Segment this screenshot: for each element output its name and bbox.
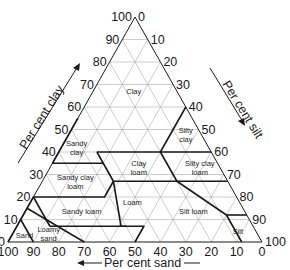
grid-line-silt: [135, 130, 199, 243]
clay-tick-label: 30: [29, 168, 43, 182]
region-label-clay-loam: loam: [131, 168, 147, 177]
region-label-silty-clay: Silty: [179, 126, 193, 135]
silt-tick-label: 40: [189, 100, 203, 114]
clay-tick-label: 60: [67, 100, 81, 114]
clay-tick-label: 40: [42, 145, 56, 159]
silt-tick-label: 10: [151, 33, 165, 47]
class-boundary: [33, 197, 50, 226]
silt-tick-label: 100: [265, 235, 286, 249]
sand-axis-arrowhead-icon: [77, 260, 84, 266]
clay-axis-arrowhead-icon: [73, 63, 80, 71]
grid-lines: [21, 40, 250, 243]
sand-tick-label: 0: [259, 245, 266, 259]
clay-tick-label: 80: [93, 55, 107, 69]
region-label-loamy-sand: Loamy: [37, 225, 60, 234]
axis-ticks: 0102030405060708090100010203040506070809…: [0, 10, 286, 259]
sand-tick-label: 100: [0, 245, 18, 259]
region-label-sandy-clay: Sandy: [66, 139, 88, 148]
region-label-silty-clay-loam: loam: [192, 168, 208, 177]
silt-tick-label: 70: [227, 168, 241, 182]
silt-tick-label: 30: [176, 78, 190, 92]
region-label-silty-clay-loam: Silty clay: [185, 159, 215, 168]
clay-axis-label: Per cent clay: [17, 82, 68, 151]
sand-tick-label: 90: [26, 245, 40, 259]
silt-tick-label: 60: [214, 145, 228, 159]
soil-texture-triangle: 0102030405060708090100010203040506070809…: [0, 0, 290, 270]
region-label-sandy-clay-loam: loam: [67, 182, 83, 191]
sand-axis-label: Per cent sand: [104, 256, 181, 270]
clay-tick-label: 90: [105, 33, 119, 47]
silt-axis-label: Per cent silt: [219, 78, 266, 141]
clay-tick-label: 70: [80, 78, 94, 92]
sand-tick-label: 20: [204, 245, 218, 259]
region-label-sand: Sand: [16, 231, 34, 240]
sand-tick-label: 10: [230, 245, 244, 259]
clay-tick-label: 10: [4, 213, 18, 227]
clay-tick-label: 50: [55, 123, 69, 137]
clay-tick-label: 20: [16, 190, 30, 204]
region-label-loamy-sand: sand: [41, 234, 57, 243]
silt-tick-label: 80: [240, 190, 254, 204]
silt-tick-label: 20: [163, 55, 177, 69]
silt-axis: Per cent silt: [210, 68, 266, 141]
clay-tick-label: 100: [111, 10, 132, 24]
silt-tick-label: 0: [138, 10, 145, 24]
sand-tick-label: 70: [77, 245, 91, 259]
silt-tick-label: 90: [252, 213, 266, 227]
region-label-silt-loam: Silt loam: [179, 207, 208, 216]
region-label-sandy-clay-loam: Sandy clay: [57, 173, 94, 182]
sand-tick-label: 80: [52, 245, 66, 259]
region-label-clay: Clay: [126, 87, 141, 96]
region-label-sandy-loam: Sandy loam: [62, 207, 102, 216]
region-label-loam: Loam: [123, 198, 142, 207]
region-label-sandy-clay: clay: [70, 148, 84, 157]
region-label-silty-clay: clay: [179, 135, 193, 144]
silt-tick-label: 50: [202, 123, 216, 137]
region-label-clay-loam: Clay: [131, 159, 146, 168]
class-boundary: [121, 226, 144, 242]
region-label-silt: Silt: [233, 227, 244, 236]
